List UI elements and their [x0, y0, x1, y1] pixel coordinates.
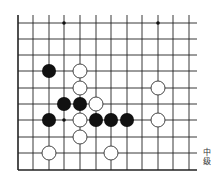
caption: 中 级	[203, 148, 214, 166]
black-stone	[42, 113, 56, 127]
black-stone	[120, 113, 134, 127]
black-stone	[104, 113, 118, 127]
white-stone	[73, 130, 87, 144]
black-stone	[42, 64, 56, 78]
white-stone	[42, 146, 56, 160]
stones	[42, 64, 165, 160]
caption-line-2: 级	[203, 157, 214, 166]
star-point	[62, 21, 66, 25]
white-stone	[73, 81, 87, 95]
white-stone	[151, 81, 165, 95]
go-board	[0, 0, 214, 186]
white-stone	[104, 146, 118, 160]
white-stone	[73, 113, 87, 127]
star-point	[156, 21, 160, 25]
black-stone	[73, 97, 87, 111]
star-point	[62, 118, 66, 122]
black-stone	[89, 113, 103, 127]
white-stone	[73, 64, 87, 78]
caption-line-1: 中	[203, 148, 214, 157]
white-stone	[89, 97, 103, 111]
white-stone	[151, 113, 165, 127]
black-stone	[57, 97, 71, 111]
